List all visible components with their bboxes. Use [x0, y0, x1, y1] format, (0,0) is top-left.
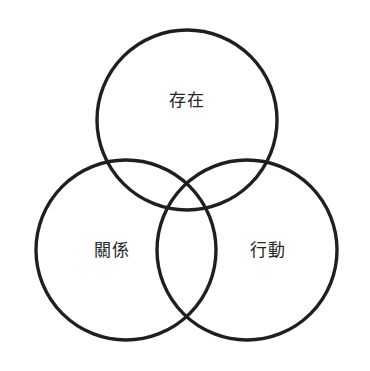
venn-diagram: 存在 關係 行動 — [0, 0, 370, 371]
venn-label-action: 行動 — [250, 242, 287, 259]
venn-label-being: 存在 — [169, 92, 206, 109]
venn-label-relation: 關係 — [94, 242, 131, 259]
venn-diagram-canvas — [0, 0, 370, 371]
